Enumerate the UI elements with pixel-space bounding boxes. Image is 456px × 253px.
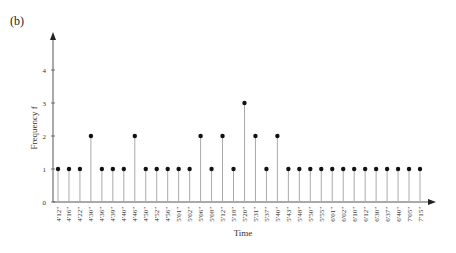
data-point xyxy=(231,167,235,171)
data-point xyxy=(220,134,224,138)
y-tick-label: 3 xyxy=(43,100,47,108)
x-tick-label: 4'52" xyxy=(153,207,161,222)
data-point xyxy=(198,134,202,138)
data-point xyxy=(374,167,378,171)
y-axis-label: Frequency f xyxy=(29,106,39,149)
x-tick-label: 6'40" xyxy=(395,207,403,222)
x-tick-label: 5'43" xyxy=(285,207,293,222)
data-stems xyxy=(56,101,422,202)
x-tick-label: 4'12" xyxy=(55,207,63,222)
y-tick-label: 2 xyxy=(43,133,47,141)
x-tick-label: 4'56" xyxy=(164,207,172,222)
x-tick-label: 5'18" xyxy=(230,207,238,222)
data-point xyxy=(176,167,180,171)
data-point xyxy=(264,167,268,171)
data-point xyxy=(407,167,411,171)
y-axis: 01234 xyxy=(43,32,57,207)
x-tick-label: 6'02" xyxy=(340,207,348,222)
data-point xyxy=(275,134,279,138)
data-point xyxy=(341,167,345,171)
data-point xyxy=(319,167,323,171)
data-point xyxy=(100,167,104,171)
stem-chart: 01234 4'12"4'16"4'22"4'30"4'36"4'39"4'40… xyxy=(0,0,456,253)
data-point xyxy=(330,167,334,171)
x-tick-label: 4'22" xyxy=(76,207,84,222)
x-tick-label: 6'12" xyxy=(362,207,370,222)
x-tick-labels: 4'12"4'16"4'22"4'30"4'36"4'39"4'40"4'46"… xyxy=(55,207,425,222)
x-tick-label: 7'05" xyxy=(406,207,414,222)
x-tick-label: 4'36" xyxy=(98,207,106,222)
data-point xyxy=(165,167,169,171)
data-point xyxy=(133,134,137,138)
data-point xyxy=(286,167,290,171)
data-point xyxy=(363,167,367,171)
x-tick-label: 4'40" xyxy=(120,207,128,222)
data-point xyxy=(209,167,213,171)
x-tick-label: 5'06" xyxy=(197,207,205,222)
x-axis-label: Time xyxy=(234,228,253,238)
data-point xyxy=(297,167,301,171)
data-point xyxy=(385,167,389,171)
y-tick-label: 0 xyxy=(43,199,47,207)
x-tick-label: 5'01" xyxy=(175,207,183,222)
x-tick-label: 5'02" xyxy=(186,207,194,222)
data-point xyxy=(78,167,82,171)
x-tick-label: 5'48" xyxy=(296,207,304,222)
data-point xyxy=(155,167,159,171)
x-tick-label: 5'20" xyxy=(241,207,249,222)
x-tick-label: 5'31" xyxy=(252,207,260,222)
data-point xyxy=(144,167,148,171)
data-point xyxy=(67,167,71,171)
y-tick-label: 4 xyxy=(43,67,47,75)
x-tick-label: 4'30" xyxy=(87,207,95,222)
data-point xyxy=(242,101,246,105)
x-tick-label: 5'12" xyxy=(219,207,227,222)
data-point xyxy=(111,167,115,171)
x-tick-label: 5'50" xyxy=(307,207,315,222)
x-tick-label: 4'50" xyxy=(142,207,150,222)
data-point xyxy=(396,167,400,171)
data-point xyxy=(187,167,191,171)
x-tick-label: 6'37" xyxy=(384,207,392,222)
data-point xyxy=(352,167,356,171)
x-tick-label: 5'08" xyxy=(208,207,216,222)
x-tick-label: 7'15" xyxy=(417,207,425,222)
x-tick-label: 5'37" xyxy=(263,207,271,222)
x-tick-label: 6'30" xyxy=(373,207,381,222)
data-point xyxy=(56,167,60,171)
y-tick-label: 1 xyxy=(43,166,47,174)
data-point xyxy=(308,167,312,171)
x-tick-label: 4'16" xyxy=(65,207,73,222)
x-tick-label: 6'10" xyxy=(351,207,359,222)
x-tick-label: 4'39" xyxy=(109,207,117,222)
data-point xyxy=(122,167,126,171)
data-point xyxy=(253,134,257,138)
data-point xyxy=(89,134,93,138)
x-tick-label: 5'40" xyxy=(274,207,282,222)
x-tick-label: 4'46" xyxy=(131,207,139,222)
data-point xyxy=(418,167,422,171)
x-tick-label: 5'55" xyxy=(318,207,326,222)
x-tick-label: 6'01" xyxy=(329,207,337,222)
